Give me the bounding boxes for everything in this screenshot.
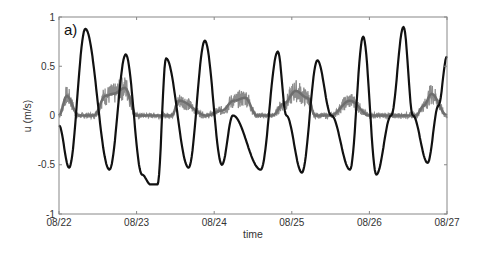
y-axis-label: u (m/s) [21,100,33,133]
x-axis: 08/2208/2308/2408/2508/2608/27 [46,17,459,228]
chart: -1-0.500.51 08/2208/2308/2408/2508/2608/… [0,0,485,254]
y-tick-label: 0 [49,110,55,121]
x-tick-label: 08/26 [357,217,382,228]
y-tick-label: 0.5 [41,61,55,72]
x-axis-label: time [243,228,263,240]
panel-label: a) [64,21,77,38]
y-tick-label: -0.5 [38,159,56,170]
x-tick-label: 08/23 [124,217,149,228]
x-tick-label: 08/27 [434,217,459,228]
x-tick-label: 08/22 [46,217,71,228]
x-tick-label: 08/24 [202,217,227,228]
y-tick-label: 1 [49,12,55,23]
plot-area [59,27,447,185]
x-tick-label: 08/25 [279,217,304,228]
series-black-line [59,27,447,185]
